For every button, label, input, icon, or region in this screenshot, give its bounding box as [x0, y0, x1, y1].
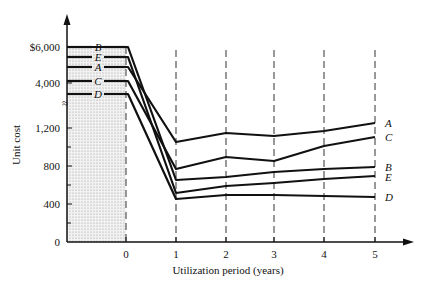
right-label-D: D [384, 191, 393, 203]
y-tick-1200: 1,200 [35, 122, 60, 134]
x-tick-2: 2 [223, 248, 229, 260]
series-E-line [124, 57, 375, 193]
series-A-line [124, 67, 375, 142]
right-label-E: E [384, 171, 392, 183]
axis-break-symbol: ≈ [62, 97, 68, 109]
x-tick-5: 5 [372, 248, 378, 260]
right-label-C: C [385, 131, 393, 143]
y-tick-800: 800 [44, 160, 61, 172]
y-tick-400: 400 [44, 198, 61, 210]
y-tick-6000: $6,000 [30, 41, 61, 53]
unit-cost-chart: ≈ $6,000 4,000 1,200 800 400 0 0 1 2 3 4… [0, 0, 426, 289]
left-label-C: C [94, 75, 102, 87]
y-tick-0: 0 [55, 236, 61, 248]
x-tick-1: 1 [173, 248, 179, 260]
x-tick-4: 4 [321, 248, 327, 260]
series-D-line [124, 94, 375, 199]
y-tick-4000: 4,000 [35, 77, 60, 89]
right-label-A: A [384, 117, 392, 129]
x-tick-3: 3 [271, 248, 277, 260]
x-axis-title: Utilization period (years) [172, 264, 284, 277]
x-tick-0: 0 [123, 248, 129, 260]
left-label-A: A [94, 61, 102, 73]
series-C-line [124, 81, 375, 169]
left-label-D: D [93, 88, 102, 100]
y-axis-title: Unit cost [10, 125, 22, 165]
